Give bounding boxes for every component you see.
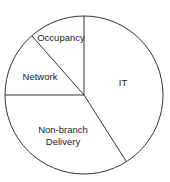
slice-label-nonbranch-2: Delivery <box>46 136 81 147</box>
pie-chart: IT Non-branch Delivery Network Occupancy <box>0 0 170 182</box>
slice-label-network: Network <box>23 71 58 82</box>
slice-label-occupancy: Occupancy <box>37 32 85 43</box>
slice-label-nonbranch-1: Non-branch <box>38 124 88 135</box>
slice-label-it: IT <box>119 77 128 88</box>
